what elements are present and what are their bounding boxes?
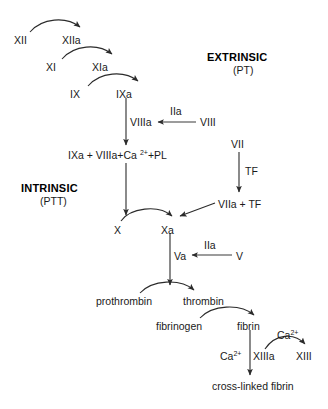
node-f5a: Va [174,250,186,262]
node-fibrin: fibrin [237,320,260,332]
node-ca-lower-main: Ca [220,350,234,362]
node-prothrombin: prothrombin [96,295,152,307]
node-f10: X [114,224,121,236]
node-ca-upper-main: Ca [277,329,291,341]
node-fibrinogen: fibrinogen [156,320,202,332]
node-f13a: XIIIa [253,350,275,362]
node-f7: VII [231,138,244,150]
edge-label-tf: TF [245,165,258,177]
node-f9: IX [70,88,80,100]
edge-prothrombin-thrombin [140,282,194,293]
edge-label-iia-top: IIa [170,105,182,117]
node-f8a: VIIIa [130,116,152,128]
node-complex-sup: 2+ [140,149,148,156]
node-ca-upper: Ca2+ [277,329,298,341]
edge-f12-f12a [30,20,80,32]
cascade-svg: XII XIIa XI XIa IX IXa VIIIa IIa VIII IX… [0,0,328,409]
heading-intrinsic-sub: (PTT) [40,195,67,207]
node-f11: XI [46,61,56,73]
edge-fibrinogen-fibrin [200,307,254,318]
node-f13: XIII [296,350,312,362]
node-f10a: Xa [161,224,174,236]
edge-f7a-tf-f10a [180,203,215,216]
edge-f10-f10a [121,209,172,221]
node-thrombin: thrombin [183,295,224,307]
node-f7a-tf: VIIa + TF [218,198,261,210]
edge-f11-f11a [62,47,112,59]
coagulation-cascade-diagram: XII XIIa XI XIa IX IXa VIIIa IIa VIII IX… [0,0,328,409]
node-ca-lower-sup: 2+ [233,350,241,357]
node-complex-tail: +PL [148,149,167,161]
edge-label-iia-mid: IIa [204,239,216,251]
node-complex-main: IXa + VIIIa+Ca [68,149,137,161]
node-f12a: XIIa [62,34,81,46]
node-f12: XII [14,34,27,46]
node-f11a: XIa [92,61,108,73]
node-f9a: IXa [116,88,132,100]
heading-extrinsic-sub: (PT) [233,64,253,76]
edge-f9-f9a [88,74,138,86]
node-f5: V [236,250,243,262]
node-complex: IXa + VIIIa+Ca2++PL [68,149,167,161]
heading-extrinsic: EXTRINSIC [207,51,267,63]
node-f8: VIII [200,116,216,128]
node-ca-upper-sup: 2+ [290,329,298,336]
node-cross-linked-fibrin: cross-linked fibrin [212,380,294,392]
node-ca-lower: Ca2+ [220,350,241,362]
heading-intrinsic: INTRINSIC [21,182,78,194]
